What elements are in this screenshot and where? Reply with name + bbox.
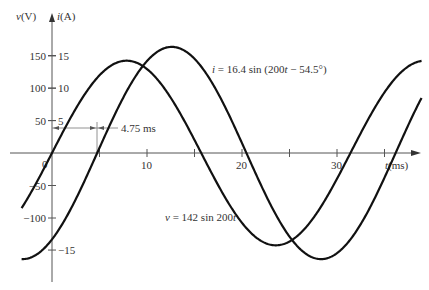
- arrow-left-icon: [98, 126, 104, 130]
- arrow-right-icon: [90, 126, 96, 130]
- y-tick-label: 100: [30, 82, 47, 94]
- phasor-waveform-chart: 102030 15010050−50−10015105−15 v(V) i(A)…: [0, 0, 429, 290]
- axes: [10, 20, 414, 282]
- y-tick-label: −100: [23, 212, 46, 224]
- voltage-equation: v = 142 sin 200t: [165, 211, 237, 223]
- x-tick-label: 30: [331, 159, 343, 171]
- y-tick-label: 50: [35, 115, 47, 127]
- y-tick-label: 5: [58, 115, 64, 127]
- y-tick-label: −15: [58, 244, 76, 256]
- x-axis-arrow-icon: [411, 150, 421, 156]
- x-tick-label: 20: [236, 159, 248, 171]
- y-tick-label: 15: [58, 50, 70, 62]
- current-equation: i = 16.4 sin (200t − 54.5°): [212, 63, 327, 76]
- x-tick-label: 10: [141, 159, 153, 171]
- y-tick-label: 10: [58, 82, 70, 94]
- delay-label: 4.75 ms: [121, 122, 156, 134]
- arrow-left-icon: [53, 126, 59, 130]
- y-tick-label: 150: [30, 50, 47, 62]
- i-axis-label: i(A): [57, 10, 76, 23]
- v-axis-label: v(V): [16, 10, 36, 23]
- y-axis-arrow-icon: [49, 13, 55, 22]
